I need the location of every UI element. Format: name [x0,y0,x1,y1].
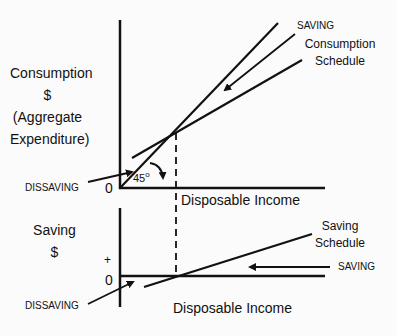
ylabel-line: Consumption [10,62,85,84]
ylabel-line: $ [10,84,85,106]
ylabel-line: (Aggregate [10,106,85,128]
bottom-y-label: Saving $ [22,219,87,263]
schedule-line: Schedule [310,235,370,252]
angle-value: 45 [133,172,145,184]
schedule-line: Schedule [300,53,380,70]
angle-label: 45o [133,170,150,184]
bottom-dissaving-label: DISSAVING [25,300,79,311]
bottom-origin-label: 0 [105,272,113,288]
bottom-x-label: Disposable Income [173,300,292,316]
saving-schedule-label: Saving Schedule [310,218,370,252]
bottom-saving-label: SAVING [338,261,375,272]
ylabel-line: Saving [22,219,87,241]
saving-schedule-line [144,234,312,287]
45-degree-line [120,23,278,188]
angle-arc-arrow [150,163,163,178]
plus-label: + [104,253,111,267]
ylabel-line: $ [22,241,87,263]
degree-symbol: o [145,170,149,179]
top-saving-label: SAVING [297,20,334,31]
top-x-label: Disposable Income [181,192,300,208]
consumption-schedule-label: Consumption Schedule [300,36,380,70]
schedule-line: Consumption [300,36,380,53]
top-origin-label: 0 [105,180,113,196]
top-dissaving-label: DISSAVING [25,182,79,193]
consumption-schedule-line [132,60,302,158]
top-y-label: Consumption $ (Aggregate Expenditure) [10,62,85,150]
ylabel-line: Expenditure) [10,128,85,150]
schedule-line: Saving [310,218,370,235]
